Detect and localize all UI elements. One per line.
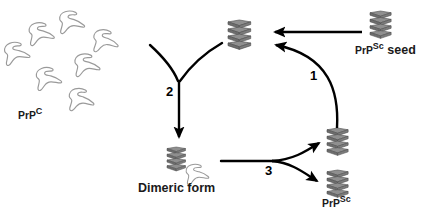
step-number-1: 1 [310, 69, 317, 82]
prpsc-label-base: PrP [322, 198, 340, 209]
prpsc-product-upper-icon [327, 128, 348, 155]
prpsc-label-superscript: Sc [340, 194, 351, 204]
step-number-2: 2 [166, 85, 173, 98]
recycle-arrow-step-1 [276, 45, 337, 128]
step-number-3: 3 [265, 164, 272, 177]
prpsc-seed-label-superscript: Sc [373, 41, 384, 51]
prpc-label: PrPC [18, 109, 42, 122]
merge-arrow-step-2 [150, 43, 222, 137]
prpsc-aggregate-icon [228, 20, 251, 49]
prpc-monomer-icon [35, 67, 63, 93]
prpc-monomer-icon [91, 28, 121, 56]
prpsc-seed-icon [370, 11, 391, 38]
prpc-label-superscript: C [36, 106, 43, 116]
prpsc-seed-label: PrPSc seed [355, 44, 416, 57]
dimeric-form-label: Dimeric form [138, 182, 215, 195]
prpc-monomer-icon [58, 10, 87, 37]
prion-conversion-diagram: PrPC PrPSc seed Dimeric form PrPSc 1 2 3 [0, 0, 423, 215]
prpc-monomer-icon [73, 53, 101, 80]
prpc-monomer-pool [4, 10, 121, 115]
prpc-label-base: PrP [18, 110, 36, 121]
prpsc-seed-label-suffix: seed [384, 43, 416, 57]
prpc-monomer-icon [4, 42, 31, 67]
prpsc-label: PrPSc [322, 197, 351, 210]
prpc-monomer-icon [28, 22, 56, 48]
prpc-monomer-icon [67, 87, 97, 115]
prpsc-seed-label-base: PrP [355, 45, 373, 56]
